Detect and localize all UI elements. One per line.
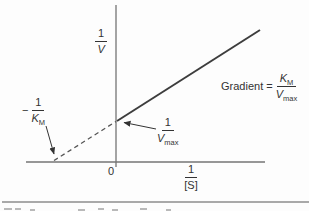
y-axis-label-denominator: V — [97, 42, 104, 55]
x-intercept-label: − 1 KM — [22, 97, 45, 124]
cutoff-text-fragment — [4, 208, 12, 210]
gradient-numerator: K — [280, 72, 287, 84]
cutoff-text-fragment — [166, 209, 171, 211]
y-intercept-denominator: V — [157, 132, 164, 144]
lineweaver-burk-plot: 1 V Gradient = KM Vmax − 1 KM 1 Vmax 0 1… — [0, 0, 309, 211]
cutoff-text-fragment — [112, 209, 118, 211]
gradient-fraction: KM Vmax — [276, 73, 298, 100]
extrapolation-dashed-line — [54, 122, 116, 161]
y-intercept-numerator: 1 — [162, 117, 174, 131]
y-axis-label: 1 V — [95, 28, 113, 55]
arrow-to-y-intercept — [124, 123, 156, 130]
origin-label: 0 — [105, 166, 117, 177]
x-intercept-denominator-subscript: M — [39, 119, 45, 127]
x-axis-label-denominator: [S] — [184, 178, 197, 191]
x-intercept-denominator: K — [31, 112, 38, 124]
gradient-numerator-subscript: M — [287, 79, 293, 87]
gradient-denominator: V — [276, 88, 283, 100]
y-axis-label-numerator: 1 — [95, 28, 107, 42]
gradient-prefix: Gradient = — [221, 81, 273, 92]
arrow-to-x-intercept — [46, 126, 54, 154]
x-intercept-numerator: 1 — [32, 97, 44, 111]
cutoff-text-fragment — [30, 209, 35, 211]
x-axis-label: 1 [S] — [180, 164, 202, 191]
gradient-denominator-subscript: max — [283, 95, 297, 103]
cutoff-text-fragment — [140, 208, 147, 210]
minus-sign: − — [22, 105, 28, 116]
cutoff-text-fragment — [98, 208, 104, 210]
gradient-annotation: Gradient = KM Vmax — [221, 73, 297, 100]
y-intercept-denominator-subscript: max — [164, 139, 178, 147]
cutoff-text-fragment — [15, 208, 21, 210]
y-intercept-label: 1 Vmax — [157, 117, 179, 144]
x-axis-label-numerator: 1 — [185, 164, 197, 178]
plot-canvas — [0, 0, 309, 211]
cutoff-text-fragment — [78, 209, 85, 211]
